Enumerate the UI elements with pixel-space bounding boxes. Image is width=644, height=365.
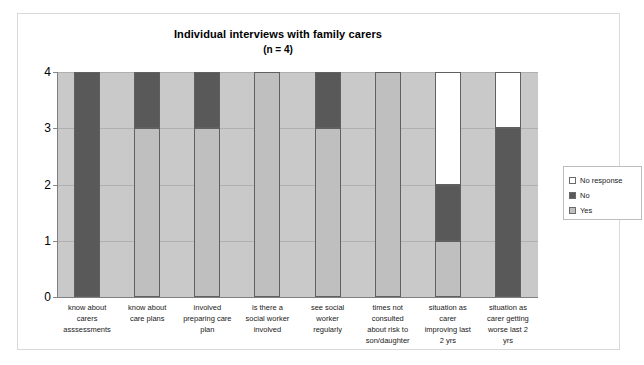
bar-segment-no[interactable] (134, 72, 160, 128)
y-axis-tick (53, 128, 57, 129)
y-axis-tick-label: 2 (25, 178, 51, 192)
chart-legend: No responseNoYes (563, 166, 642, 220)
chart-canvas: Individual interviews with family carers… (17, 13, 620, 350)
bar-stack[interactable] (375, 72, 401, 297)
bar-stack[interactable] (134, 72, 160, 297)
bar-segment-yes[interactable] (315, 128, 341, 297)
bar-slot (237, 72, 297, 297)
bar-slot (418, 72, 478, 297)
x-axis-category-label: know aboutcarersasssessments (57, 302, 117, 335)
bar-stack[interactable] (495, 72, 521, 297)
bar-segment-no-response[interactable] (495, 72, 521, 128)
x-axis-category-label: involvedpreparing careplan (177, 302, 237, 335)
bar-segment-no[interactable] (495, 128, 521, 297)
bar-segment-yes[interactable] (375, 72, 401, 297)
bar-stack[interactable] (435, 72, 461, 297)
y-axis-tick-label: 4 (25, 65, 51, 79)
x-axis-line (57, 297, 538, 298)
y-axis-tick (53, 241, 57, 242)
legend-label: No response (580, 176, 623, 185)
x-axis-category-label: situation ascarer gettingworse last 2yrs (478, 302, 538, 346)
bar-segment-no[interactable] (435, 185, 461, 241)
x-axis-labels: know aboutcarersasssessmentsknow aboutca… (57, 302, 538, 360)
legend-label: No (580, 191, 590, 200)
bar-stack[interactable] (254, 72, 280, 297)
x-axis-category-label: see socialworkerregularly (298, 302, 358, 335)
bar-slot (57, 72, 117, 297)
bar-segment-no[interactable] (194, 72, 220, 128)
y-axis-tick-label: 3 (25, 121, 51, 135)
bar-slot (298, 72, 358, 297)
bar-slot (117, 72, 177, 297)
bar-segment-yes[interactable] (254, 72, 280, 297)
y-axis: 43210 (18, 72, 51, 298)
y-axis-tick-label: 0 (25, 290, 51, 304)
legend-item[interactable]: Yes (569, 203, 637, 218)
bar-segment-no[interactable] (74, 72, 100, 297)
chart-title: Individual interviews with family carers (18, 27, 538, 42)
plot-area (57, 72, 538, 297)
x-axis-category-label: situation ascarerimproving last2 yrs (418, 302, 478, 346)
y-axis-tick (53, 185, 57, 186)
x-axis-category-label: know aboutcare plans (117, 302, 177, 324)
bar-segment-yes[interactable] (194, 128, 220, 297)
legend-item[interactable]: No response (569, 173, 637, 188)
bar-slot (177, 72, 237, 297)
x-axis-category-label: times notconsultedabout risk toson/daugh… (358, 302, 418, 346)
bar-segment-no-response[interactable] (435, 72, 461, 185)
legend-swatch-icon (569, 192, 576, 199)
legend-swatch-icon (569, 207, 576, 214)
bar-stack[interactable] (315, 72, 341, 297)
x-axis-category-label: is there asocial workerinvolved (237, 302, 297, 335)
legend-item[interactable]: No (569, 188, 637, 203)
bar-segment-no[interactable] (315, 72, 341, 128)
legend-swatch-icon (569, 177, 576, 184)
bar-segment-yes[interactable] (435, 241, 461, 297)
bar-stack[interactable] (74, 72, 100, 297)
bar-segment-yes[interactable] (134, 128, 160, 297)
legend-label: Yes (580, 206, 592, 215)
bar-stack[interactable] (194, 72, 220, 297)
y-axis-tick-label: 1 (25, 234, 51, 248)
y-axis-tick (53, 72, 57, 73)
bar-slot (358, 72, 418, 297)
bar-slot (478, 72, 538, 297)
y-axis-line (57, 72, 58, 298)
chart-subtitle: (n = 4) (18, 43, 538, 57)
y-axis-tick (53, 297, 57, 298)
